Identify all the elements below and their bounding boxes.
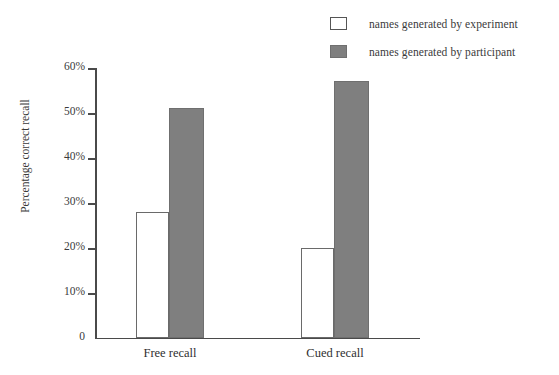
legend-item-participant: names generated by participant — [330, 41, 518, 62]
y-tick-label-50: 50% — [47, 106, 85, 118]
x-axis-label-cued-recall: Cued recall — [265, 346, 405, 361]
y-tick-label-20: 20% — [47, 241, 85, 253]
y-tick-50 — [88, 113, 96, 115]
y-tick-10 — [88, 293, 96, 295]
y-tick-label-10: 10% — [47, 286, 85, 298]
legend-label-experiment: names generated by experiment — [369, 18, 518, 30]
y-tick-30 — [88, 203, 96, 205]
legend-item-experiment: names generated by experiment — [330, 13, 518, 34]
y-axis-title: Percentage correct recall — [19, 56, 31, 256]
chart-legend: names generated by experiment names gene… — [330, 13, 518, 69]
open-square-swatch-icon — [330, 17, 347, 30]
bar-free-recall-experiment — [136, 212, 169, 338]
legend-label-participant: names generated by participant — [369, 46, 515, 58]
bar-chart: names generated by experiment names gene… — [0, 0, 559, 375]
x-axis-label-free-recall: Free recall — [100, 346, 240, 361]
bar-cued-recall-participant — [334, 81, 369, 338]
y-tick-60 — [88, 68, 96, 70]
bar-cued-recall-experiment — [301, 248, 334, 338]
filled-square-swatch-icon — [330, 45, 347, 58]
y-tick-label-30: 30% — [47, 196, 85, 208]
y-tick-label-40: 40% — [47, 151, 85, 163]
y-tick-40 — [88, 158, 96, 160]
y-tick-20 — [88, 248, 96, 250]
bar-free-recall-participant — [169, 108, 204, 338]
y-tick-label-0: 0 — [47, 331, 85, 343]
y-tick-label-60: 60% — [47, 61, 85, 73]
